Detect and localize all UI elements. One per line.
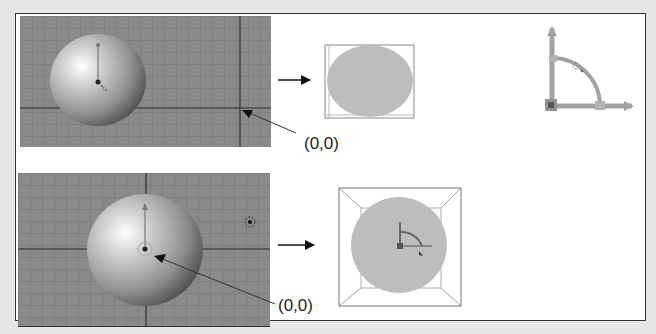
viewport-bottom bbox=[18, 173, 270, 327]
origin-label-bottom: (0,0) bbox=[278, 296, 313, 316]
origin-label-top: (0,0) bbox=[304, 134, 339, 154]
viewport-top bbox=[20, 16, 271, 147]
